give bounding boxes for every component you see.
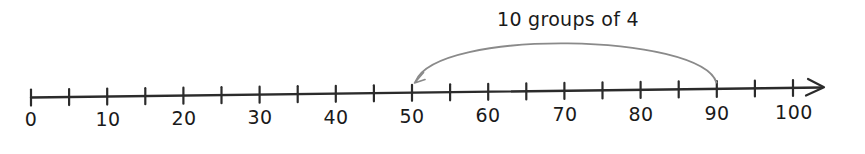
tick-label-0: 0 [25, 108, 38, 130]
tick-label-50: 50 [399, 105, 424, 127]
tick-label-30: 30 [247, 106, 272, 128]
tick-label-40: 40 [323, 106, 348, 128]
number-line-axis [31, 88, 822, 98]
tick-label-20: 20 [171, 107, 196, 129]
tick-label-10: 10 [95, 108, 120, 130]
tick-label-80: 80 [628, 103, 653, 125]
tick-label-100: 100 [775, 101, 813, 123]
number-line-figure: 0 10 20 30 40 50 60 70 80 90 100 10 grou… [0, 0, 865, 154]
tick-label-60: 60 [475, 104, 500, 126]
tick-label-70: 70 [552, 103, 577, 125]
jump-label: 10 groups of 4 [497, 8, 639, 30]
tick-label-90: 90 [704, 102, 729, 124]
jump-arc-90-to-50 [416, 43, 717, 82]
